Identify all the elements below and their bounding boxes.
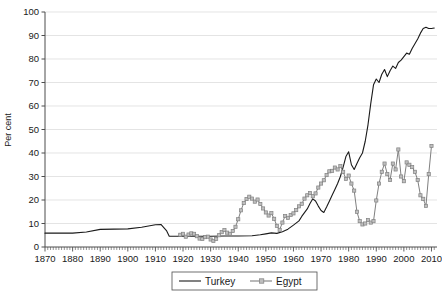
series-marker — [319, 182, 322, 185]
series-marker — [275, 224, 278, 227]
series-marker — [314, 192, 317, 195]
y-tick-label: 10 — [28, 218, 39, 229]
series-marker — [364, 222, 367, 225]
y-tick-label: 90 — [28, 30, 39, 41]
series-marker — [331, 169, 334, 172]
series-marker — [344, 177, 347, 180]
x-tick-label: 1980 — [338, 253, 359, 264]
x-tick-label: 1890 — [90, 253, 111, 264]
y-axis-label: Per cent — [3, 113, 13, 147]
series-marker — [336, 168, 339, 171]
x-tick-label: 1930 — [200, 253, 221, 264]
series-marker — [317, 186, 320, 189]
y-tick-label: 80 — [28, 53, 39, 64]
series-marker — [402, 180, 405, 183]
series-marker — [413, 170, 416, 173]
y-tick-label: 100 — [23, 6, 39, 17]
series-marker — [358, 220, 361, 223]
series-marker — [259, 202, 262, 205]
series-marker — [322, 179, 325, 182]
series-marker — [416, 178, 419, 181]
chart-figure: 0102030405060708090100 18701880189019001… — [0, 0, 442, 300]
series-marker — [295, 209, 298, 212]
series-marker — [430, 144, 433, 147]
series-marker — [394, 168, 397, 171]
y-tick-label: 70 — [28, 77, 39, 88]
series-marker — [278, 228, 281, 231]
x-tick-label: 2010 — [421, 253, 442, 264]
series-marker — [388, 178, 391, 181]
series-marker — [325, 173, 328, 176]
x-axis-tick-labels: 1870188018901900191019201930194019501960… — [34, 253, 442, 264]
series-marker — [292, 212, 295, 215]
series-marker — [234, 225, 237, 228]
series-marker — [339, 165, 342, 168]
series-marker — [383, 162, 386, 165]
series-marker — [380, 170, 383, 173]
x-tick-label: 1920 — [172, 253, 193, 264]
x-tick-label: 1900 — [117, 253, 138, 264]
x-tick-label: 1880 — [62, 253, 83, 264]
series-marker — [377, 182, 380, 185]
series-marker — [419, 194, 422, 197]
y-tick-label: 50 — [28, 124, 39, 135]
series-marker — [215, 237, 218, 240]
series-marker — [424, 204, 427, 207]
series-marker — [372, 220, 375, 223]
series-marker — [342, 170, 345, 173]
series-marker — [281, 221, 284, 224]
series-marker — [391, 162, 394, 165]
x-tick-label: 1870 — [34, 253, 55, 264]
series-marker — [400, 175, 403, 178]
chart-legend: TurkeyEgypt — [172, 272, 317, 290]
series-marker — [270, 212, 273, 215]
series-marker — [261, 207, 264, 210]
series-marker — [239, 209, 242, 212]
x-tick-label: 1970 — [310, 253, 331, 264]
series-marker — [411, 166, 414, 169]
x-tick-label: 1960 — [283, 253, 304, 264]
series-marker — [242, 201, 245, 204]
legend-label-turkey: Turkey — [205, 276, 235, 287]
series-marker — [303, 197, 306, 200]
series-marker — [237, 218, 240, 221]
legend-marker-egypt — [259, 279, 263, 283]
x-tick-label: 2000 — [393, 253, 414, 264]
series-marker — [422, 197, 425, 200]
y-tick-label: 30 — [28, 171, 39, 182]
legend-label-egypt: Egypt — [276, 276, 302, 287]
series-marker — [353, 189, 356, 192]
x-tick-label: 1990 — [366, 253, 387, 264]
y-tick-label: 60 — [28, 100, 39, 111]
series-marker — [355, 210, 358, 213]
series-marker — [347, 174, 350, 177]
y-tick-label: 40 — [28, 147, 39, 158]
series-marker — [308, 191, 311, 194]
x-tick-label: 1950 — [255, 253, 276, 264]
series-marker — [397, 148, 400, 151]
series-marker — [300, 202, 303, 205]
series-marker — [231, 229, 234, 232]
x-tick-label: 1940 — [228, 253, 249, 264]
series-marker — [256, 198, 259, 201]
series-marker — [375, 199, 378, 202]
x-tick-label: 1910 — [145, 253, 166, 264]
series-marker — [427, 173, 430, 176]
series-marker — [386, 173, 389, 176]
series-marker — [350, 182, 353, 185]
y-tick-label: 0 — [34, 241, 39, 252]
y-tick-label: 20 — [28, 194, 39, 205]
series-marker — [273, 217, 276, 220]
